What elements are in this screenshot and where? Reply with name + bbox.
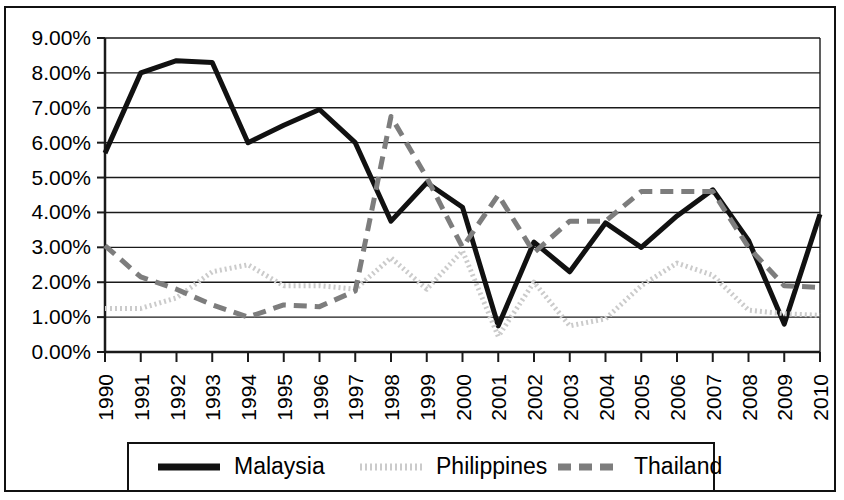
x-axis-tick-label: 1994 [237,374,260,421]
x-axis-tick-label: 2005 [630,374,653,421]
x-axis-tick-label: 2003 [559,374,582,421]
y-axis-tick-label: 1.00% [31,305,91,328]
x-axis-labels: 1990199119921993199419951996199719981999… [94,374,832,421]
x-axis-tick-label: 1996 [309,374,332,421]
x-axis-tick-label: 2006 [666,374,689,421]
y-axis-tick-label: 8.00% [31,61,91,84]
x-axis-tick-label: 1995 [273,374,296,421]
y-axis-tick-label: 4.00% [31,200,91,223]
y-axis-tick-label: 3.00% [31,235,91,258]
x-axis-tick-label: 2009 [773,374,796,421]
gridlines-group [105,38,820,352]
y-axis-tick-label: 5.00% [31,166,91,189]
x-axis-tick-label: 1993 [201,374,224,421]
x-axis-tick-label: 2004 [595,374,618,421]
x-axis-tick-label: 2008 [738,374,761,421]
x-axis-tick-label: 1990 [94,374,117,421]
y-axis-tick-label: 9.00% [31,26,91,49]
y-axis-labels: 0.00%1.00%2.00%3.00%4.00%5.00%6.00%7.00%… [31,26,91,363]
data-series-group [105,61,820,337]
x-axis-tick-label: 2010 [809,374,832,421]
x-axis-tick-label: 2001 [487,374,510,421]
axis-lines [105,38,820,352]
legend-label-malaysia: Malaysia [234,453,325,479]
chart-figure: 0.00%1.00%2.00%3.00%4.00%5.00%6.00%7.00%… [0,0,844,500]
x-axis-tick-label: 2007 [702,374,725,421]
y-axis-tick-label: 2.00% [31,270,91,293]
x-axis-ticks [105,352,820,362]
y-axis-tick-label: 6.00% [31,131,91,154]
x-axis-tick-label: 1992 [166,374,189,421]
series-line-thailand [105,117,820,318]
x-axis-tick-label: 2002 [523,374,546,421]
x-axis-tick-label: 1991 [130,374,153,421]
legend-label-thailand: Thailand [634,453,722,479]
x-axis-tick-label: 1997 [344,374,367,421]
y-axis-tick-label: 0.00% [31,340,91,363]
legend-box: MalaysiaPhilippinesThailand [128,443,722,491]
x-axis-tick-label: 2000 [452,374,475,421]
legend-label-philippines: Philippines [436,453,547,479]
x-axis-tick-label: 1998 [380,374,403,421]
series-line-philippines [105,251,820,336]
x-axis-tick-label: 1999 [416,374,439,421]
y-axis-tick-label: 7.00% [31,96,91,119]
line-chart: 0.00%1.00%2.00%3.00%4.00%5.00%6.00%7.00%… [0,0,844,500]
